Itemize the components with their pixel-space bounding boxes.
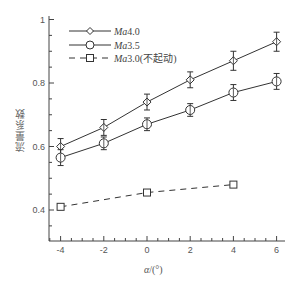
- y-tick-label: 1: [40, 15, 45, 25]
- chart: 0.40.60.81-4-20246 Ma4.0 Ma3.5 Ma3.0(不起动…: [0, 0, 299, 286]
- x-tick-label: 0: [144, 245, 149, 255]
- legend-item-ma3: Ma3.0(不起动): [69, 53, 177, 65]
- x-tick-label: -4: [57, 245, 65, 255]
- legend-label-italic: Ma: [113, 40, 127, 51]
- svg-text:Ma4.0: Ma4.0: [113, 26, 140, 37]
- diamond-marker-icon: [87, 28, 94, 35]
- y-tick-label: 0.6: [32, 142, 45, 152]
- y-tick-label: 0.4: [32, 205, 45, 215]
- x-tick-label: -2: [100, 245, 108, 255]
- series-2: [57, 181, 237, 210]
- x-tick-label: 4: [231, 245, 236, 255]
- square-marker-icon: [144, 189, 151, 196]
- legend-label-italic: Ma: [113, 26, 127, 37]
- square-marker-icon: [57, 203, 64, 210]
- axes: [49, 16, 285, 241]
- legend-label-italic: Ma: [113, 53, 127, 64]
- ticks: 0.40.60.81-4-20246: [32, 15, 279, 256]
- legend-item-ma35: Ma3.5: [69, 40, 140, 51]
- series-1: [56, 73, 281, 165]
- svg-text:Ma3.0(不起动): Ma3.0(不起动): [113, 53, 177, 65]
- x-axis-title: α/(°): [144, 264, 163, 276]
- square-marker-icon: [230, 181, 237, 188]
- legend-item-ma4: Ma4.0: [69, 26, 140, 37]
- legend-label: 3.0(不起动): [127, 53, 176, 65]
- x-tick-label: 2: [188, 245, 193, 255]
- legend-label: 4.0: [127, 26, 140, 37]
- square-marker-icon: [87, 55, 94, 62]
- svg-text:Ma3.5: Ma3.5: [113, 40, 140, 51]
- legend-label: 3.5: [127, 40, 140, 51]
- circle-marker-icon: [86, 41, 94, 49]
- series-0: [57, 32, 281, 154]
- y-axis-title: 流量系数: [14, 108, 28, 152]
- legend: Ma4.0 Ma3.5 Ma3.0(不起动): [69, 26, 177, 65]
- y-tick-label: 0.8: [32, 78, 45, 88]
- x-tick-label: 6: [274, 245, 279, 255]
